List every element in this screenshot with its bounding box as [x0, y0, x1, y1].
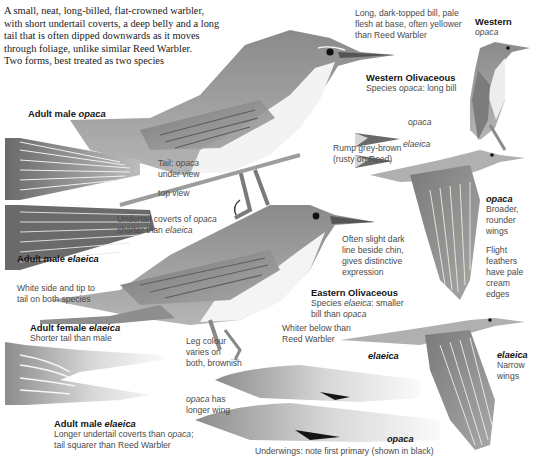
western-olivaceous-species: Species opaca: long bill [366, 83, 456, 94]
species-name: opaca [343, 309, 366, 319]
text: longer wing [186, 405, 230, 416]
text: Shorter tail than male [30, 333, 120, 344]
eastern-olivaceous-title: Eastern Olivaceous [311, 287, 404, 298]
tail-illustration-adult-male-elaeica [5, 342, 165, 405]
species-name: opaca [186, 394, 209, 404]
bill-label-opaca: opaca [408, 117, 431, 127]
text: under view [158, 169, 200, 180]
western-title: Western [475, 16, 512, 27]
intro-line: Two forms, best treated as two species [4, 55, 274, 68]
text: Leg colour [186, 336, 242, 347]
bill-note-line: than Reed Warbler [355, 30, 462, 41]
text: feathers [486, 256, 523, 267]
underwing-illustration-elaeica [215, 365, 420, 402]
opaca-wing-title: opaca [486, 194, 523, 204]
species-name: opaca [399, 83, 422, 93]
text: Undertail coverts of [117, 214, 193, 224]
intro-line: tail that is often dipped downwards as i… [4, 30, 274, 43]
text: edges [486, 289, 523, 300]
intro-line: through foliage, unlike similar Reed War… [4, 43, 274, 56]
species-name: elaeica [105, 418, 136, 429]
text: Flight [486, 245, 523, 256]
bill-note-line: flesh at base, often yellower [355, 19, 462, 30]
text: gives distinctive [342, 256, 405, 267]
text: line beside chin, [342, 245, 405, 256]
text: wings [497, 371, 528, 382]
intro-paragraph: A small, neat, long-billed, flat-crowned… [4, 5, 274, 68]
species-name: elaeica [344, 298, 371, 308]
text: has [209, 394, 225, 404]
species-name: elaeica [89, 322, 120, 333]
leg-colour-note: Leg colour varies on both, brownish [186, 336, 242, 369]
western-olivaceous-label: Western Olivaceous Species opaca: long b… [366, 72, 456, 94]
underwings-note: Underwings: note first primary (shown in… [255, 446, 434, 457]
adult-male-elaeica-heading: Adult male elaeica [17, 253, 99, 264]
text: Adult male [17, 253, 68, 264]
text: rounder [486, 215, 523, 226]
text: Narrow [497, 360, 528, 371]
bill-note-line: Long, dark-topped bill, pale [355, 8, 462, 19]
text: Tail: [158, 158, 176, 168]
eastern-olivaceous-label: Eastern Olivaceous Species elaeica: smal… [311, 287, 404, 320]
opaca-longer-wing-note: opaca has longer wing [186, 394, 230, 416]
bird-illustration-western-opaca-perched [470, 42, 530, 150]
text: Whiter below than [282, 323, 351, 334]
western-label: Western opaca [475, 16, 512, 38]
text: have pale [486, 267, 523, 278]
text: wings [486, 226, 523, 237]
text: : smaller [371, 298, 403, 308]
adult-male-opaca-heading: Adult male opaca [28, 108, 106, 119]
illustration-layer [0, 0, 535, 459]
species-name: opaca [193, 214, 216, 224]
species-name: elaeica [165, 225, 192, 235]
text: Adult male [28, 108, 79, 119]
chin-note: Often slight dark line beside chin, give… [342, 234, 405, 278]
opaca-wing-note: opaca Broader, rounder wings Flight feat… [486, 194, 523, 300]
western-subtitle: opaca [475, 27, 498, 37]
adult-male-elaeica-bottom-label: Adult male elaeica Longer undertail cove… [54, 418, 194, 451]
intro-line: with short undertail coverts, a deep bel… [4, 18, 274, 31]
text: tail on both species [17, 294, 95, 305]
adult-female-elaeica-label: Adult female elaeica Shorter tail than m… [30, 322, 120, 344]
intro-line: A small, neat, long-billed, flat-crowned… [4, 5, 274, 18]
text: Adult female [30, 322, 89, 333]
rump-note: Rump grey-brown (rusty on Reed) [333, 143, 401, 165]
text: Often slight dark [342, 234, 405, 245]
text: both, brownish [186, 358, 242, 369]
text: Reed Warbler [282, 334, 351, 345]
text: cream [486, 278, 523, 289]
elaeica-wing-title: elaeica [497, 350, 528, 360]
species-name: opaca [176, 158, 199, 168]
text: Species [366, 83, 399, 93]
bill-label-elaeica: elaeica [403, 139, 430, 149]
text: tail squarer than Reed Warbler [54, 440, 194, 451]
text: Broader, [486, 204, 523, 215]
tail-top-view-label: top view [158, 188, 190, 199]
opaca-underwing-label: opaca [387, 434, 414, 444]
elaeica-wing-note: elaeica Narrow wings [497, 350, 528, 382]
text: shorter than [117, 225, 165, 235]
western-olivaceous-title: Western Olivaceous [366, 72, 456, 83]
bill-note: Long, dark-topped bill, pale flesh at ba… [355, 8, 462, 41]
rump-note-line: Rump grey-brown [333, 143, 401, 154]
tail-under-view-label: Tail: opaca under view [158, 158, 200, 180]
species-name: opaca [79, 108, 106, 119]
text: Adult male [54, 418, 105, 429]
text: Longer undertail coverts than [54, 429, 168, 439]
undertail-coverts-note: Undertail coverts of opaca shorter than … [117, 214, 217, 236]
species-name: opaca [168, 429, 191, 439]
rump-note-line: (rusty on Reed) [333, 154, 401, 165]
white-side-note: White side and tip to tail on both speci… [17, 283, 95, 305]
elaeica-underwing-label: elaeica [368, 351, 399, 361]
text: Species [311, 298, 344, 308]
whiter-below-note: Whiter below than Reed Warbler [282, 323, 351, 345]
text: expression [342, 267, 405, 278]
text: : long bill [422, 83, 456, 93]
species-name: elaeica [68, 253, 99, 264]
text: White side and tip to [17, 283, 95, 294]
text: bill than [311, 309, 343, 319]
text: ; [191, 429, 193, 439]
text: varies on [186, 347, 242, 358]
